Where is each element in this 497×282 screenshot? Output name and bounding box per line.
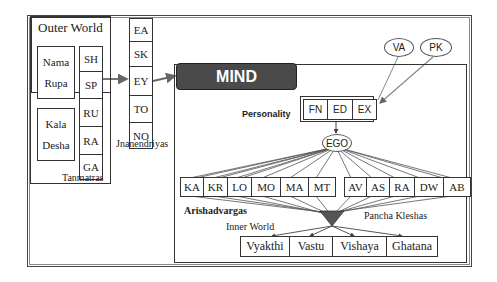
arishadvarga-mt: MT [308, 177, 336, 197]
inner-world-vishaya: Vishaya [332, 236, 387, 257]
inner-world-vyakthi: Vyakthi [240, 236, 290, 257]
klesha-dw: DW [414, 177, 444, 197]
klesha-av: AV [344, 177, 367, 197]
arishadvarga-ma: MA [280, 177, 309, 197]
pancha-kleshas-row: AV AS RA DW AB [344, 177, 471, 197]
personality-ex: EX [352, 99, 377, 120]
personality-ed: ED [327, 99, 353, 120]
personality-fn: FN [303, 99, 328, 120]
klesha-ab: AB [443, 177, 471, 197]
arishadvarga-kr: KR [203, 177, 228, 197]
mind-title: MIND [176, 63, 297, 90]
arishadvarga-lo: LO [227, 177, 252, 197]
mind-box [174, 64, 467, 263]
jnanendriya-sk: SK [129, 41, 153, 67]
pancha-kleshas-label: Pancha Kleshas [364, 210, 427, 221]
outer-world-frame [30, 16, 111, 184]
jnanendriya-ey: EY [129, 66, 153, 96]
klesha-ra: RA [389, 177, 415, 197]
arishadvargas-label: Arishadvargas [184, 205, 247, 216]
ego-node: EGO [322, 134, 352, 152]
inner-world-row: Vyakthi Vastu Vishaya Ghatana [240, 236, 438, 257]
arishadvargas-row: KA KR LO MO MA MT [180, 177, 336, 197]
arishadvarga-ka: KA [180, 177, 204, 197]
personality-label: Personality [242, 109, 291, 119]
jnanendriyas-label: Jnanendriyas [116, 138, 168, 149]
inner-world-label: Inner World [226, 221, 274, 232]
jnanendriya-ea: EA [129, 18, 153, 42]
influence-va: VA [384, 38, 414, 57]
jnanendriya-to: TO [129, 95, 153, 123]
klesha-as: AS [366, 177, 390, 197]
inner-world-vastu: Vastu [289, 236, 333, 257]
jnanendriyas-column: EA SK EY TO NO [129, 18, 153, 149]
personality-row: FN ED EX [303, 99, 377, 120]
arishadvarga-mo: MO [251, 177, 281, 197]
influence-pk: PK [420, 38, 452, 57]
inner-world-ghatana: Ghatana [386, 236, 438, 257]
